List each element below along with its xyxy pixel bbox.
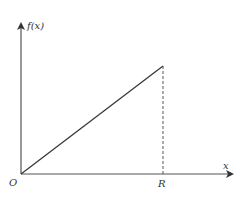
r-label: R [157,178,166,189]
origin-label: O [9,177,17,188]
function-graph: f(x) x O R [0,0,241,197]
x-axis-label: x [223,160,229,171]
function-line [21,66,163,174]
y-axis-label: f(x) [26,20,44,31]
